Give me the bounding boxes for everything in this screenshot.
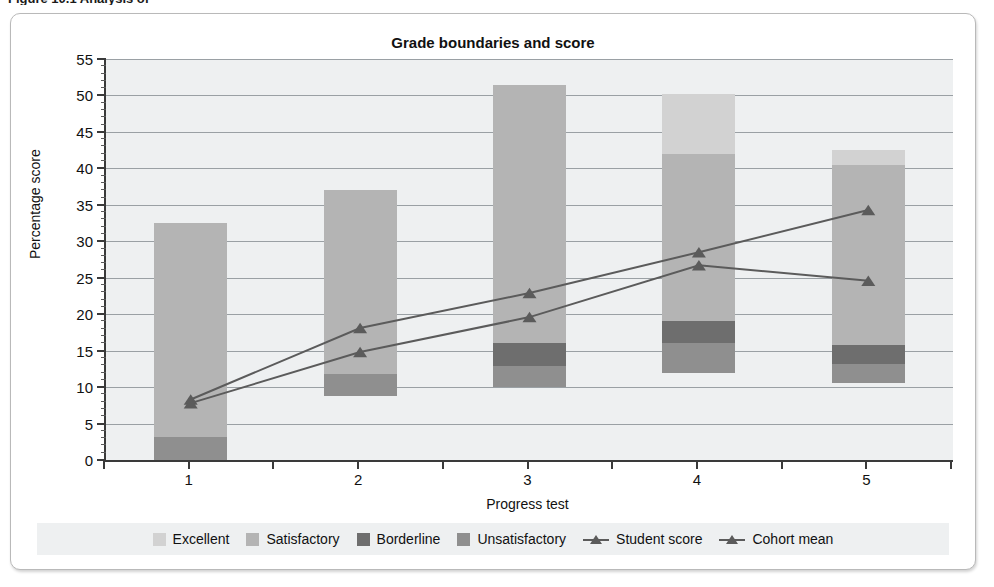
x-tick — [865, 460, 867, 469]
x-tick-label: 5 — [862, 471, 870, 488]
x-tick-label: 3 — [523, 471, 531, 488]
y-tick-major — [97, 204, 106, 206]
line-series-layer — [106, 59, 953, 460]
legend-label: Borderline — [377, 531, 441, 547]
y-tick-major — [97, 277, 106, 279]
x-tick-label: 1 — [185, 471, 193, 488]
legend-item-satisfactory[interactable]: Satisfactory — [246, 531, 339, 547]
line-cohort-mean — [191, 265, 869, 403]
y-tick-major — [97, 423, 106, 425]
y-tick-major — [97, 386, 106, 388]
chart-legend: ExcellentSatisfactoryBorderlineUnsatisfa… — [37, 523, 949, 555]
y-tick-label: 50 — [76, 87, 93, 104]
y-tick-label: 5 — [85, 415, 93, 432]
x-tick — [188, 460, 190, 469]
y-tick-label: 55 — [76, 51, 93, 68]
x-tick-boundary — [272, 460, 274, 469]
legend-line-marker-icon — [583, 533, 609, 546]
legend-item-cohort-mean[interactable]: Cohort mean — [719, 531, 833, 547]
legend-swatch-icon — [457, 533, 470, 546]
y-tick-label: 35 — [76, 196, 93, 213]
y-tick-label: 20 — [76, 306, 93, 323]
x-axis-title: Progress test — [104, 496, 951, 512]
x-tick-boundary — [611, 460, 613, 469]
x-tick-label: 4 — [693, 471, 701, 488]
y-tick-major — [97, 350, 106, 352]
y-tick-major — [97, 313, 106, 315]
legend-triangle-icon — [726, 535, 738, 544]
legend-label: Cohort mean — [752, 531, 833, 547]
x-tick-label: 2 — [354, 471, 362, 488]
x-tick-boundary — [781, 460, 783, 469]
y-tick-major — [97, 240, 106, 242]
legend-item-excellent[interactable]: Excellent — [153, 531, 230, 547]
legend-triangle-icon — [590, 535, 602, 544]
y-tick-label: 25 — [76, 269, 93, 286]
figure-page: Figure 10.1 Analysis of Grade boundaries… — [0, 0, 994, 587]
y-tick-major — [97, 167, 106, 169]
legend-line-marker-icon — [719, 533, 745, 546]
marker-student-score — [692, 247, 706, 258]
marker-student-score — [861, 205, 875, 216]
legend-label: Unsatisfactory — [477, 531, 566, 547]
y-tick-major — [97, 94, 106, 96]
y-tick-label: 45 — [76, 123, 93, 140]
line-student-score — [191, 210, 869, 400]
y-tick-label: 40 — [76, 160, 93, 177]
figure-caption: Figure 10.1 Analysis of — [8, 0, 149, 5]
chart-title: Grade boundaries and score — [11, 34, 975, 51]
y-tick-label: 15 — [76, 342, 93, 359]
legend-label: Student score — [616, 531, 702, 547]
legend-swatch-icon — [153, 533, 166, 546]
legend-item-unsatisfactory[interactable]: Unsatisfactory — [457, 531, 566, 547]
plot-area: 0510152025303540455055 — [104, 59, 953, 462]
x-tick — [357, 460, 359, 469]
legend-item-student-score[interactable]: Student score — [583, 531, 702, 547]
legend-label: Excellent — [173, 531, 230, 547]
legend-label: Satisfactory — [266, 531, 339, 547]
y-tick-label: 0 — [85, 452, 93, 469]
chart-frame: Grade boundaries and score Percentage sc… — [10, 13, 976, 570]
legend-swatch-icon — [246, 533, 259, 546]
x-tick-boundary — [442, 460, 444, 469]
x-tick — [527, 460, 529, 469]
x-tick-boundary — [103, 460, 105, 469]
y-tick-major — [97, 131, 106, 133]
x-tick-boundary — [950, 460, 952, 469]
x-axis: 12345 Progress test — [104, 460, 951, 520]
y-tick-label: 30 — [76, 233, 93, 250]
y-tick-major — [97, 58, 106, 60]
legend-swatch-icon — [357, 533, 370, 546]
y-tick-label: 10 — [76, 379, 93, 396]
y-axis-title: Percentage score — [27, 149, 43, 259]
x-tick — [696, 460, 698, 469]
legend-item-borderline[interactable]: Borderline — [357, 531, 441, 547]
